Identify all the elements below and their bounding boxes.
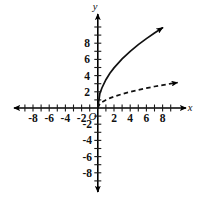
x-tick-label: 2: [111, 112, 117, 124]
y-tick-label: 2: [84, 86, 90, 98]
x-tick-label: 8: [160, 112, 166, 124]
x-tick-label: 4: [127, 112, 133, 124]
y-tick-label: -8: [82, 167, 92, 179]
graph-canvas: -8 -6 -4 -2 2 4 6 8 8 6 4 2 -2 -4 -6 -8 …: [0, 0, 201, 198]
x-tick-label: -8: [28, 112, 38, 124]
y-tick-label: 4: [84, 70, 90, 82]
x-tick-label: -4: [61, 112, 71, 124]
x-tick-label: 6: [144, 112, 150, 124]
dashed-curve: [98, 83, 178, 108]
x-axis-tick-labels: -8 -6 -4 -2 2 4 6 8: [28, 112, 166, 124]
y-tick-label: -6: [82, 151, 92, 163]
x-tick-label: -6: [44, 112, 54, 124]
y-tick-label: 6: [84, 53, 90, 65]
coordinate-plane-figure: -8 -6 -4 -2 2 4 6 8 8 6 4 2 -2 -4 -6 -8 …: [0, 0, 201, 198]
origin-label: O: [89, 110, 97, 122]
y-tick-label: -4: [82, 134, 92, 146]
y-axis-label: y: [92, 1, 98, 12]
x-axis: [14, 105, 186, 112]
y-tick-label: 8: [84, 37, 90, 49]
x-axis-label: x: [187, 102, 193, 113]
solid-curve: [98, 28, 163, 108]
